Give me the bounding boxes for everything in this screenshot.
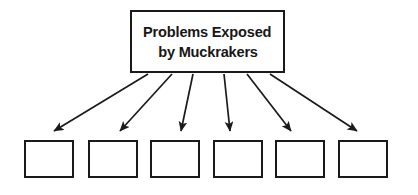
connector-arrow-6 (270, 74, 357, 131)
leaf-box-4[interactable] (213, 140, 263, 178)
arrow-group (54, 74, 357, 131)
title-box: Problems Exposed by Muckrakers (130, 10, 285, 73)
diagram-canvas: Problems Exposed by Muckrakers (0, 0, 418, 195)
connector-arrow-2 (120, 74, 172, 131)
leaf-box-5[interactable] (275, 140, 325, 178)
leaf-box-2[interactable] (88, 140, 138, 178)
connector-arrow-4 (224, 74, 230, 131)
leaf-box-1[interactable] (24, 140, 74, 178)
leaf-box-6[interactable] (338, 140, 388, 178)
connector-arrow-3 (181, 74, 193, 131)
connector-arrow-1 (54, 74, 148, 131)
title-line-2: by Muckrakers (158, 42, 258, 62)
leaf-box-3[interactable] (150, 140, 200, 178)
title-line-1: Problems Exposed (143, 22, 271, 42)
